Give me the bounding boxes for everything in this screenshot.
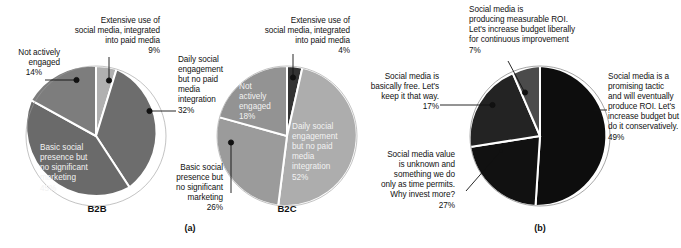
panel-a-caption: (a) [170,223,210,233]
b2c-title: B2C [266,203,308,214]
panel-b-caption: (b) [520,223,560,233]
b2c-value-extensive: 4% [210,46,350,56]
b2c-label-basic: Basic social presence but no significant… [155,163,223,203]
b2b-label-basic: Basic social presence but no significant… [40,143,108,183]
pie-roi-slice-unknown [470,136,540,206]
roi-value-measurable: 7% [469,46,529,56]
roi-value-unknown: 27% [343,201,455,211]
b2c-value-daily: 52% [292,173,332,183]
roi-value-promising: 49% [608,133,668,143]
b2b-label-extensive: Extensive use of social media, integrate… [20,16,160,46]
roi-label-unknown: Social media value is unknown and someth… [343,150,455,200]
b2c-value-notengaged: 18% [239,112,287,122]
b2b-title: B2B [76,203,118,214]
b2b-value-notengaged: 14% [0,68,42,78]
b2b-value-basic: 45% [40,184,108,194]
pie-roi-slice-promising [536,66,607,206]
b2b-value-daily: 32% [178,106,218,116]
b2c-label-extensive: Extensive use of social media, integrate… [210,16,350,46]
roi-value-free: 17% [347,102,439,112]
b2c-value-basic: 26% [155,203,223,213]
pie-roi [470,66,610,206]
roi-label-measurable: Social media is producing measurable ROI… [469,5,639,45]
figure-canvas: Extensive use of social media, integrate… [0,0,681,248]
b2b-label-daily: Daily social engagement but no paid medi… [178,55,248,105]
roi-label-promising: Social media is a promising tactic and w… [608,72,681,133]
b2b-label-notengaged: Not actively engaged [0,48,60,68]
b2c-label-notengaged: Not actively engaged [239,82,287,112]
roi-label-free: Social media is basically free. Let's ke… [347,72,439,102]
